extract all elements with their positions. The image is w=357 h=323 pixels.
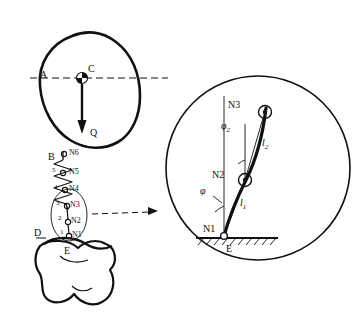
label-index-4: 4 bbox=[54, 184, 58, 191]
label-E-detail: E bbox=[226, 244, 232, 254]
ground-hatching bbox=[196, 238, 278, 245]
label-index-2: 2 bbox=[58, 215, 62, 222]
label-N6: N6 bbox=[69, 149, 79, 157]
l1-subscript: 1 bbox=[243, 203, 247, 211]
phi1-symbol: φ bbox=[200, 185, 206, 196]
label-N1-left: N1 bbox=[72, 231, 82, 239]
label-N3-left: N3 bbox=[70, 201, 80, 209]
phi1-leader bbox=[213, 196, 222, 203]
joint-marker-N1 bbox=[221, 233, 228, 240]
label-index-5: 5 bbox=[52, 167, 56, 174]
l2-subscript: 2 bbox=[265, 143, 269, 151]
label-N3-detail: N3 bbox=[228, 100, 240, 110]
label-N5: N5 bbox=[69, 168, 79, 176]
label-N2-detail: N2 bbox=[212, 170, 224, 180]
detail-connector-arrow bbox=[92, 207, 158, 215]
label-phi1: φ bbox=[200, 186, 206, 196]
center-of-mass-marker-C bbox=[77, 73, 88, 84]
label-l1: l1 bbox=[240, 198, 246, 211]
label-N4: N4 bbox=[69, 185, 79, 193]
label-B: B bbox=[48, 152, 55, 162]
label-phi2: φ2 bbox=[221, 121, 230, 134]
label-Q: Q bbox=[90, 128, 97, 138]
label-E-left: E bbox=[64, 246, 70, 256]
pelvis-outline bbox=[36, 238, 115, 304]
label-D: D bbox=[34, 228, 41, 238]
detail-circle bbox=[166, 76, 350, 260]
label-C: C bbox=[88, 64, 95, 74]
phi2-subscript: 2 bbox=[227, 126, 231, 134]
label-N2-left: N2 bbox=[71, 217, 81, 225]
label-l2: l2 bbox=[262, 138, 268, 151]
angle-arc-phi2 bbox=[238, 160, 245, 164]
weight-vector-Q bbox=[78, 84, 87, 134]
label-index-3: 3 bbox=[56, 200, 60, 207]
label-N1-detail: N1 bbox=[203, 224, 215, 234]
label-index-1: 1 bbox=[60, 229, 64, 236]
figure-canvas: A C Q B D E N6 N5 N4 N3 N2 N1 5 4 3 2 1 … bbox=[0, 0, 357, 323]
label-A: A bbox=[40, 70, 47, 80]
